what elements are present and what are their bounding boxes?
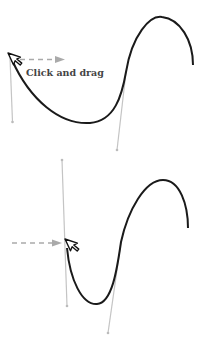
top-right-handle[interactable] [117,72,126,150]
bottom-left-handle-top-point[interactable] [61,159,64,162]
bottom-curve[interactable] [67,180,188,304]
top-figure [8,17,193,151]
top-drag-arrow [20,56,65,63]
bottom-left-handle-bottom-point[interactable] [66,305,69,308]
bottom-drag-arrow [12,240,62,247]
click-and-drag-label: Click and drag [26,67,104,78]
bezier-diagram [0,0,201,353]
top-left-handle[interactable] [10,58,13,122]
top-right-handle-point[interactable] [116,149,119,152]
top-left-handle-point[interactable] [11,121,14,124]
arrowhead-icon [55,56,65,63]
arrowhead-icon [52,240,62,247]
bottom-figure [12,159,188,335]
bottom-left-handle[interactable] [62,160,67,306]
bottom-right-handle-point[interactable] [107,332,110,335]
